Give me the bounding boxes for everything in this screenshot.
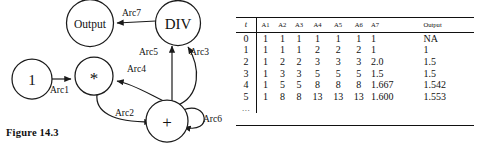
cell-a1: 1 bbox=[257, 90, 275, 102]
node-one-label: 1 bbox=[28, 72, 36, 88]
cell-output: 1.5 bbox=[419, 56, 474, 68]
cell-a5: 2 bbox=[328, 44, 349, 56]
cell-a7: 1.600 bbox=[369, 90, 419, 102]
node-div-label: DIV bbox=[165, 16, 192, 32]
column-header-output: Output bbox=[419, 18, 474, 33]
table-row: 4 1 5 5 8 8 8 1.667 1.542 bbox=[236, 79, 474, 91]
table-row: 5 1 8 8 13 13 13 1.600 1.553 bbox=[236, 90, 474, 102]
table-header: t A1 A2 A3 A4 A5 A6 A7 Output bbox=[236, 18, 474, 33]
cell-a6: 1 bbox=[348, 32, 369, 44]
cell-a2: 1 bbox=[274, 44, 291, 56]
diagram-canvas: 1 Output DIV * + Arc1 Arc2 Arc3 Arc4 Arc… bbox=[0, 0, 232, 147]
cell-a1: 1 bbox=[257, 56, 275, 68]
cell-t: 1 bbox=[236, 44, 257, 56]
edge-arc7 bbox=[117, 21, 156, 23]
arc-label-arc1: Arc1 bbox=[50, 85, 69, 95]
cell-output: 1 bbox=[419, 44, 474, 56]
cell-a7: 1 bbox=[369, 32, 419, 44]
cell-a3: 5 bbox=[291, 79, 308, 91]
arc-label-arc4: Arc4 bbox=[127, 64, 146, 74]
column-header-a6: A6 bbox=[348, 18, 369, 33]
arc-label-arc6: Arc6 bbox=[203, 114, 222, 124]
arc-label-arc5: Arc5 bbox=[139, 47, 158, 57]
column-header-a1: A1 bbox=[257, 18, 275, 33]
cell-a1: 1 bbox=[257, 79, 275, 91]
cell-a6: 8 bbox=[348, 79, 369, 91]
column-header-a4: A4 bbox=[307, 18, 328, 33]
cell-a3: 2 bbox=[291, 56, 308, 68]
cell-a6: 13 bbox=[348, 90, 369, 102]
cell-a4: 3 bbox=[307, 56, 328, 68]
node-multiply-label: * bbox=[90, 69, 99, 88]
trace-table-panel: t A1 A2 A3 A4 A5 A6 A7 Output 0 1 1 1 bbox=[236, 17, 474, 113]
cell-empty bbox=[369, 102, 419, 113]
cell-t: 5 bbox=[236, 90, 257, 102]
cell-a2: 8 bbox=[274, 90, 291, 102]
cell-a7: 1.667 bbox=[369, 79, 419, 91]
trace-table: t A1 A2 A3 A4 A5 A6 A7 Output 0 1 1 1 bbox=[236, 17, 474, 113]
cell-output: 1.5 bbox=[419, 67, 474, 79]
cell-empty bbox=[328, 102, 349, 113]
cell-t: 3 bbox=[236, 67, 257, 79]
node-output-label: Output bbox=[74, 18, 107, 31]
cell-a3: 3 bbox=[291, 67, 308, 79]
graph-diagram: 1 Output DIV * + Arc1 Arc2 Arc3 Arc4 Arc… bbox=[0, 0, 232, 147]
cell-empty bbox=[274, 102, 291, 113]
cell-a6: 2 bbox=[348, 44, 369, 56]
cell-continuation: ... bbox=[236, 102, 257, 113]
column-header-a2: A2 bbox=[274, 18, 291, 33]
cell-a6: 5 bbox=[348, 67, 369, 79]
cell-output: 1.553 bbox=[419, 90, 474, 102]
column-header-a3: A3 bbox=[291, 18, 308, 33]
column-header-a5: A5 bbox=[328, 18, 349, 33]
cell-empty bbox=[348, 102, 369, 113]
node-plus-label: + bbox=[162, 113, 172, 132]
table-row: 1 1 1 1 2 2 2 1 1 bbox=[236, 44, 474, 56]
cell-a1: 1 bbox=[257, 32, 275, 44]
cell-a7: 2.0 bbox=[369, 56, 419, 68]
cell-output: NA bbox=[419, 32, 474, 44]
cell-a5: 1 bbox=[328, 32, 349, 44]
cell-a3: 8 bbox=[291, 90, 308, 102]
arc-label-arc2: Arc2 bbox=[115, 108, 134, 118]
cell-t: 0 bbox=[236, 32, 257, 44]
table-row: 0 1 1 1 1 1 1 1 NA bbox=[236, 32, 474, 44]
cell-a5: 5 bbox=[328, 67, 349, 79]
table-body: 0 1 1 1 1 1 1 1 NA 1 1 1 1 2 2 2 bbox=[236, 32, 474, 113]
cell-a4: 5 bbox=[307, 67, 328, 79]
cell-t: 2 bbox=[236, 56, 257, 68]
table-row: 2 1 2 2 3 3 3 2.0 1.5 bbox=[236, 56, 474, 68]
cell-a2: 3 bbox=[274, 67, 291, 79]
cell-a7: 1.5 bbox=[369, 67, 419, 79]
figure-caption: Figure 14.3 bbox=[6, 127, 59, 138]
arc-label-arc7: Arc7 bbox=[122, 8, 141, 18]
cell-a5: 8 bbox=[328, 79, 349, 91]
cell-a2: 2 bbox=[274, 56, 291, 68]
cell-a2: 1 bbox=[274, 32, 291, 44]
cell-a3: 1 bbox=[291, 32, 308, 44]
cell-a5: 13 bbox=[328, 90, 349, 102]
arc-label-arc3: Arc3 bbox=[190, 47, 209, 57]
column-header-t: t bbox=[236, 18, 257, 33]
table-bottom-rule bbox=[236, 125, 474, 126]
cell-empty bbox=[291, 102, 308, 113]
cell-output: 1.542 bbox=[419, 79, 474, 91]
cell-a2: 5 bbox=[274, 79, 291, 91]
cell-empty bbox=[257, 102, 275, 113]
cell-a4: 1 bbox=[307, 32, 328, 44]
cell-empty bbox=[307, 102, 328, 113]
cell-a7: 1 bbox=[369, 44, 419, 56]
column-header-a7: A7 bbox=[369, 18, 419, 33]
table-row: 3 1 3 3 5 5 5 1.5 1.5 bbox=[236, 67, 474, 79]
cell-a1: 1 bbox=[257, 44, 275, 56]
cell-a4: 2 bbox=[307, 44, 328, 56]
cell-a4: 13 bbox=[307, 90, 328, 102]
cell-a6: 3 bbox=[348, 56, 369, 68]
cell-t: 4 bbox=[236, 79, 257, 91]
table-row-continuation: ... bbox=[236, 102, 474, 113]
cell-a1: 1 bbox=[257, 67, 275, 79]
cell-a5: 3 bbox=[328, 56, 349, 68]
figure-14-3: 1 Output DIV * + Arc1 Arc2 Arc3 Arc4 Arc… bbox=[0, 0, 478, 147]
table-header-row: t A1 A2 A3 A4 A5 A6 A7 Output bbox=[236, 18, 474, 33]
cell-a3: 1 bbox=[291, 44, 308, 56]
